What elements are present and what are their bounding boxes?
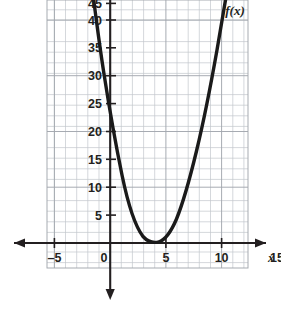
x-tick-label-0: 0 <box>101 251 108 265</box>
parabola-graph: –5 0 5 10 15 5 10 15 20 25 30 35 40 45 f… <box>0 0 281 311</box>
x-axis-arrow-left <box>14 238 25 247</box>
x-tick-label--5: –5 <box>47 251 61 265</box>
y-axis-arrow-down <box>106 289 115 300</box>
function-label: f(x) <box>225 3 245 18</box>
y-tick-label-20: 20 <box>88 125 102 139</box>
x-axis-label: x <box>267 251 274 265</box>
x-tick-label-5: 5 <box>162 251 169 265</box>
y-tick-label-15: 15 <box>88 153 102 167</box>
y-tick-label-10: 10 <box>88 181 102 195</box>
x-tick-label-10: 10 <box>215 251 229 265</box>
y-tick-label-5: 5 <box>95 209 102 223</box>
chart-canvas: –5 0 5 10 15 5 10 15 20 25 30 35 40 45 f… <box>0 0 281 311</box>
y-tick-label-25: 25 <box>88 97 102 111</box>
y-tick-label-30: 30 <box>88 69 102 83</box>
x-axis-arrow-right <box>255 238 266 247</box>
